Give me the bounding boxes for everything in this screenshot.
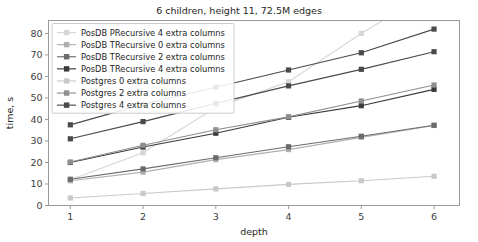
data-point xyxy=(359,31,364,36)
y-tick-label: 60 xyxy=(30,71,42,82)
data-point xyxy=(359,50,364,55)
data-point xyxy=(286,83,291,88)
data-point xyxy=(431,49,436,54)
y-tick-label: 0 xyxy=(36,200,42,211)
y-tick-label: 40 xyxy=(30,114,42,125)
chart-figure: 6 children, height 11, 72.5M edges 12345… xyxy=(0,0,478,242)
line-chart: 6 children, height 11, 72.5M edges 12345… xyxy=(0,0,478,242)
legend-marker-swatch xyxy=(64,78,69,83)
legend-marker-swatch xyxy=(64,102,69,107)
data-point xyxy=(68,159,73,164)
data-point xyxy=(140,150,145,155)
data-point xyxy=(68,195,73,200)
data-point xyxy=(286,144,291,149)
data-point xyxy=(68,122,73,127)
legend-marker-swatch xyxy=(64,30,69,35)
x-tick-label: 6 xyxy=(431,211,437,222)
x-tick-label: 5 xyxy=(358,211,364,222)
legend-label: PosDB PRecursive 4 extra columns xyxy=(81,28,225,38)
data-point xyxy=(140,119,145,124)
y-tick-label: 20 xyxy=(30,157,42,168)
y-axis-label: time, s xyxy=(4,97,15,130)
legend-item-0[interactable]: PosDB PRecursive 4 extra columns xyxy=(57,28,225,38)
data-point xyxy=(431,174,436,179)
y-tick-label: 80 xyxy=(30,28,42,39)
data-point xyxy=(213,155,218,160)
data-point xyxy=(431,123,436,128)
data-point xyxy=(68,177,73,182)
data-point xyxy=(286,182,291,187)
legend-label: Postgres 4 extra columns xyxy=(81,100,186,110)
chart-title: 6 children, height 11, 72.5M edges xyxy=(156,5,322,16)
y-tick-label: 30 xyxy=(30,135,42,146)
data-point xyxy=(213,186,218,191)
y-tick-label: 50 xyxy=(30,92,42,103)
data-point xyxy=(431,82,436,87)
data-point xyxy=(140,143,145,148)
data-point xyxy=(359,178,364,183)
data-point xyxy=(359,98,364,103)
data-point xyxy=(431,27,436,32)
x-tick-label: 2 xyxy=(140,211,146,222)
legend-label: PosDB TRecursive 0 extra columns xyxy=(81,40,225,50)
x-axis-label: depth xyxy=(240,226,268,237)
x-tick-label: 3 xyxy=(213,211,219,222)
legend-label: Postgres 2 extra columns xyxy=(81,88,186,98)
legend-label: PosDB TRecursive 4 extra columns xyxy=(81,64,225,74)
data-point xyxy=(359,103,364,108)
data-point xyxy=(359,67,364,72)
y-tick-label: 70 xyxy=(30,49,42,60)
legend-marker-swatch xyxy=(64,54,69,59)
x-tick-label: 4 xyxy=(286,211,292,222)
legend-item-3[interactable]: PosDB TRecursive 4 extra columns xyxy=(57,64,225,74)
legend-label: PosDB TRecursive 2 extra columns xyxy=(81,52,225,62)
data-point xyxy=(213,127,218,132)
legend-item-2[interactable]: PosDB TRecursive 2 extra columns xyxy=(57,52,225,62)
legend-marker-swatch xyxy=(64,90,69,95)
legend-item-1[interactable]: PosDB TRecursive 0 extra columns xyxy=(57,40,225,50)
data-point xyxy=(359,134,364,139)
legend-label: Postgres 0 extra columns xyxy=(81,76,186,86)
y-tick-label: 10 xyxy=(30,178,42,189)
data-point xyxy=(68,136,73,141)
data-point xyxy=(286,67,291,72)
legend-marker-swatch xyxy=(64,42,69,47)
data-point xyxy=(140,191,145,196)
x-tick-label: 1 xyxy=(67,211,73,222)
legend-marker-swatch xyxy=(64,66,69,71)
data-point xyxy=(140,166,145,171)
data-point xyxy=(286,114,291,119)
chart-legend[interactable]: PosDB PRecursive 4 extra columnsPosDB TR… xyxy=(52,24,234,114)
